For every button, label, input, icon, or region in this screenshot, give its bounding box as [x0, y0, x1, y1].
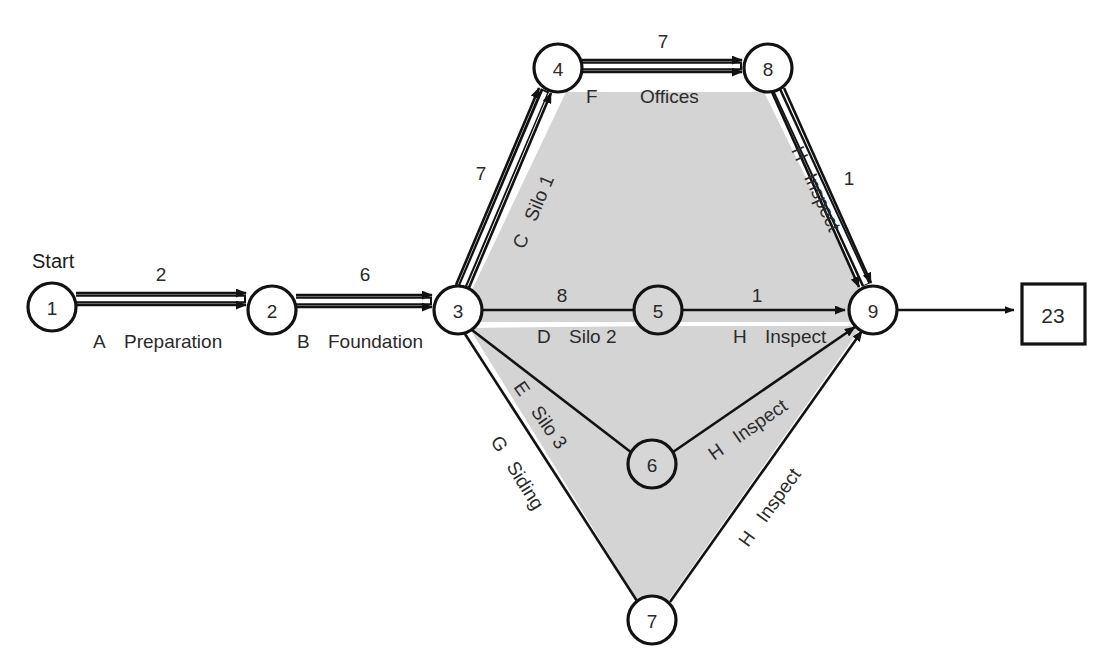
duration-label-C: 7 — [476, 163, 487, 184]
edge-code-H5: H — [733, 326, 747, 347]
duration-label-F: 7 — [658, 31, 669, 52]
node-8[interactable]: 8 — [744, 44, 792, 92]
edge-name-F: Offices — [640, 86, 699, 107]
node-3-label: 3 — [453, 301, 464, 322]
network-diagram-canvas: 1 2 3 4 5 6 7 8 — [0, 0, 1103, 669]
edge-name-D: Silo 2 — [569, 326, 617, 347]
end-box[interactable]: 23 — [1022, 284, 1085, 344]
duration-label-A: 2 — [156, 264, 167, 285]
node-7-label: 7 — [647, 611, 658, 632]
duration-label-H5: 1 — [752, 285, 763, 306]
node-6-label: 6 — [647, 455, 658, 476]
edge-code-H7: H — [734, 527, 759, 550]
node-2[interactable]: 2 — [248, 286, 296, 334]
node-6[interactable]: 6 — [628, 440, 676, 488]
edge-name-B: Foundation — [328, 331, 423, 352]
node-1-label: 1 — [47, 298, 58, 319]
node-4[interactable]: 4 — [534, 44, 582, 92]
edge-4-8[interactable] — [582, 60, 742, 72]
edge-name-G: Siding — [503, 457, 549, 513]
node-9-label: 9 — [868, 301, 879, 322]
end-box-value: 23 — [1041, 304, 1064, 327]
node-8-label: 8 — [763, 59, 774, 80]
edge-code-F: F — [586, 86, 598, 107]
edge-name-H5: Inspect — [765, 326, 827, 347]
edge-code-D: D — [537, 326, 551, 347]
duration-label-B: 6 — [360, 264, 371, 285]
edge-label-G-group: G Siding — [487, 432, 549, 513]
edge-1-2[interactable] — [76, 293, 246, 305]
edge-name-A: Preparation — [124, 331, 222, 352]
shaded-region-group — [468, 92, 862, 624]
network-diagram: 1 2 3 4 5 6 7 8 — [0, 0, 1103, 669]
duration-label-D: 8 — [557, 285, 568, 306]
node-4-label: 4 — [553, 59, 564, 80]
node-2-label: 2 — [267, 301, 278, 322]
node-5[interactable]: 5 — [634, 286, 682, 334]
edge-2-3[interactable] — [296, 295, 432, 307]
start-label: Start — [32, 250, 75, 272]
node-5-label: 5 — [653, 301, 664, 322]
node-3[interactable]: 3 — [434, 286, 482, 334]
node-7[interactable]: 7 — [628, 596, 676, 644]
node-1[interactable]: 1 — [28, 283, 76, 331]
duration-label-H8: 1 — [844, 168, 855, 189]
edge-code-G: G — [487, 432, 513, 456]
edge-code-B: B — [297, 331, 310, 352]
node-9[interactable]: 9 — [849, 286, 897, 334]
edge-code-A: A — [93, 331, 106, 352]
